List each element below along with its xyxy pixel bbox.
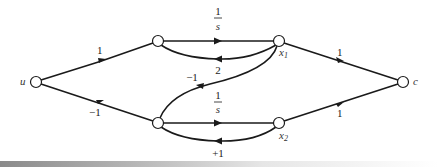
gain-label: 1 [337,46,343,58]
edge-x2-to-n2: +1 [161,127,276,159]
gain-denominator: s [216,20,220,32]
gain-label: +1 [212,147,224,159]
node-label-x2: x2 [278,129,288,143]
edge-u-to-n2: −1 [41,84,153,121]
signal-flow-graph: 1 −1 1 s 2 −1 1 s +1 [0,0,438,167]
node-c [398,77,409,88]
edge-n1-to-x1: 1 s [163,5,274,45]
gain-label: 2 [215,64,221,76]
edge-x2-to-c: 1 [284,84,398,121]
edge-n2-to-x2: 1 s [163,89,274,127]
gain-label: −1 [89,106,101,118]
arrow-icon [214,120,222,127]
node-n1 [153,36,164,47]
arrow-icon [214,38,222,45]
bottom-edge-bar [0,161,438,167]
edge-x1-to-n1: 2 [161,45,276,76]
node-label-c: c [413,75,418,87]
arrow-icon [214,138,222,145]
node-n2 [153,118,164,129]
arrow-icon [214,56,222,63]
node-x2 [274,118,285,129]
gain-numerator: 1 [215,89,221,101]
gain-label: −1 [186,71,198,83]
edge-u-to-n1: 1 [41,43,153,80]
gain-label: 1 [337,107,343,119]
node-u [31,77,42,88]
gain-numerator: 1 [215,5,221,17]
node-label-x1: x1 [278,46,288,60]
edge-x1-to-c: 1 [284,43,398,80]
node-label-u: u [20,75,26,87]
node-x1 [274,36,285,47]
gain-label: 1 [97,44,103,56]
gain-denominator: s [216,103,220,115]
